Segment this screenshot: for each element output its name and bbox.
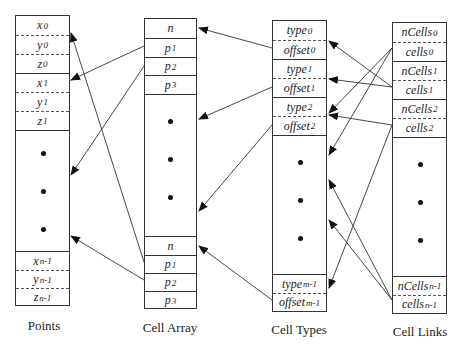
cell-array-p2: p2 <box>145 57 196 75</box>
ellipsis-dot <box>418 162 423 167</box>
ellipsis-dot <box>418 200 423 205</box>
arrow-cells0-to-type2 <box>329 48 392 113</box>
cell-array-p1: p1 <box>145 38 196 57</box>
cell-type-0: type0 <box>273 21 326 40</box>
cell-type-1: type1 <box>273 59 326 78</box>
point-xn-1: xn-1 <box>16 251 69 270</box>
arrow-offsetm-to-n <box>199 246 272 300</box>
point-zn-1: zn-1 <box>16 288 69 306</box>
arrow-cells2-to-typem <box>329 125 392 288</box>
ellipsis-dot <box>168 195 173 200</box>
cell-links-ellipsis-region <box>393 137 446 276</box>
cell-links-cells-0: cells0 <box>393 42 446 61</box>
arrow-cellsn-to-types-a <box>329 180 392 300</box>
points-label: Points <box>0 318 94 334</box>
cell-type-2: type2 <box>273 97 326 116</box>
ellipsis-dot <box>298 198 303 203</box>
cell-offset-0: offset0 <box>273 40 326 59</box>
cell-array-p3: p3 <box>145 75 196 94</box>
ellipsis-dot <box>298 236 303 241</box>
cell-links-cells-n-1: cellsn-1 <box>393 295 446 313</box>
cell-array-p2: p2 <box>145 273 196 291</box>
arrow-p2b-to-point <box>71 236 144 280</box>
arrow-p2-to-point <box>71 66 144 175</box>
cell-links-array: nCells0 cells0 nCells1 cells1 nCells2 ce… <box>392 22 447 314</box>
ellipsis-dot <box>41 151 46 156</box>
cell-links-ncells-1: nCells1 <box>393 61 446 80</box>
cell-types-array: type0 offset0 type1 offset1 type2 offset… <box>272 20 327 312</box>
cell-types-label: Cell Types <box>249 322 349 338</box>
arrow-offset1-to-array <box>199 87 272 119</box>
arrow-cells0-to-types <box>329 48 392 155</box>
arrow-p1b-to-x0 <box>71 33 144 262</box>
point-z1: z1 <box>16 111 69 130</box>
arrow-cellsn-to-types-b <box>329 220 392 300</box>
point-y1: y1 <box>16 92 69 111</box>
arrow-cells1-to-offset1 <box>329 79 392 87</box>
point-x1: x1 <box>16 73 69 92</box>
arrow-offset0-to-n <box>199 28 272 48</box>
cell-links-ncells-0: nCells0 <box>393 23 446 42</box>
ellipsis-dot <box>168 157 173 162</box>
ellipsis-dot <box>41 189 46 194</box>
cell-array-p1: p1 <box>145 255 196 273</box>
arrow-cells2-to-offset2 <box>329 115 392 125</box>
cell-array-n: n <box>145 236 196 255</box>
cell-offset-m-1: offsetm-1 <box>273 293 326 311</box>
cell-links-ncells-n-1: nCellsn-1 <box>393 276 446 295</box>
arrow-p1-to-x1 <box>71 46 144 80</box>
cell-array-n: n <box>145 19 196 38</box>
arrow-cells1-to-offset0 <box>329 41 392 87</box>
ellipsis-dot <box>41 227 46 232</box>
cell-links-ncells-2: nCells2 <box>393 99 446 118</box>
cell-links-label: Cell Links <box>370 324 459 340</box>
cell-array: n p1 p2 p3 n p1 p2 p3 <box>144 18 197 309</box>
ellipsis-dot <box>418 238 423 243</box>
point-yn-1: yn-1 <box>16 270 69 288</box>
cell-offset-2: offset2 <box>273 116 326 135</box>
ellipsis-dot <box>298 160 303 165</box>
point-x0: x0 <box>16 16 69 35</box>
cell-array-label: Cell Array <box>120 320 220 336</box>
cell-links-cells-2: cells2 <box>393 118 446 137</box>
point-z0: z0 <box>16 54 69 73</box>
cell-array-p3: p3 <box>145 291 196 309</box>
cell-offset-1: offset1 <box>273 78 326 97</box>
cell-type-m-1: typem-1 <box>273 274 326 293</box>
cell-types-ellipsis-region <box>273 135 326 274</box>
cell-links-cells-1: cells1 <box>393 80 446 99</box>
point-y0: y0 <box>16 35 69 54</box>
arrow-offset2-to-array <box>199 125 272 211</box>
points-array: x0 y0 z0 x1 y1 z1 xn-1 yn-1 zn-1 <box>15 15 70 306</box>
cell-array-ellipsis-region <box>145 94 196 236</box>
ellipsis-dot <box>168 119 173 124</box>
